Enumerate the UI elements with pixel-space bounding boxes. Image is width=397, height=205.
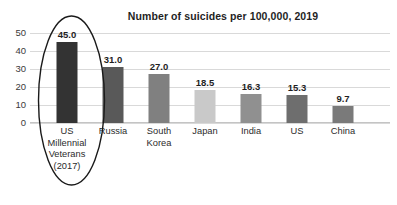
x-axis-category-label: Japan xyxy=(179,126,231,138)
gridline xyxy=(30,123,390,124)
bar[interactable] xyxy=(103,67,124,123)
y-axis: 01020304050 xyxy=(0,33,26,123)
bar[interactable] xyxy=(287,95,308,123)
x-axis-category-line: South xyxy=(133,126,185,138)
x-axis-category-line: Japan xyxy=(179,126,231,138)
bar-chart: Number of suicides per 100,000, 2019 010… xyxy=(0,0,397,205)
bars-layer: 45.031.027.018.516.315.39.7 xyxy=(30,33,390,123)
bar-value-label: 31.0 xyxy=(104,55,123,65)
x-axis-category-label: India xyxy=(225,126,277,138)
y-axis-tick-label: 20 xyxy=(15,82,26,92)
bar-group: 18.5 xyxy=(182,33,228,123)
y-axis-tick-label: 50 xyxy=(15,28,26,38)
x-axis-category-label: US xyxy=(271,126,323,138)
x-axis-category-label: Russia xyxy=(87,126,139,138)
bar-value-label: 27.0 xyxy=(150,62,169,72)
bar-group: 27.0 xyxy=(136,33,182,123)
x-axis-labels: USMillennialVeterans(2017)RussiaSouthKor… xyxy=(30,126,390,202)
bar-group: 9.7 xyxy=(320,33,366,123)
x-axis-category-line: Korea xyxy=(133,138,185,150)
bar-value-label: 45.0 xyxy=(58,30,77,40)
bar-group: 45.0 xyxy=(44,33,90,123)
bar[interactable] xyxy=(195,90,216,123)
y-axis-tick-label: 0 xyxy=(21,118,26,128)
x-axis-category-label: China xyxy=(317,126,369,138)
bar-group: 15.3 xyxy=(274,33,320,123)
x-axis-category-line: US xyxy=(41,126,93,138)
x-axis-category-label: SouthKorea xyxy=(133,126,185,149)
bar[interactable] xyxy=(57,42,78,123)
y-axis-tick-label: 10 xyxy=(15,100,26,110)
y-axis-tick-label: 40 xyxy=(15,46,26,56)
bar-value-label: 15.3 xyxy=(288,83,307,93)
bar[interactable] xyxy=(149,74,170,123)
bar-value-label: 9.7 xyxy=(336,94,349,104)
x-axis-category-line: Russia xyxy=(87,126,139,138)
bar[interactable] xyxy=(241,94,262,123)
x-axis-category-line: Millennial xyxy=(41,138,93,150)
bar-value-label: 18.5 xyxy=(196,78,215,88)
y-axis-tick-label: 30 xyxy=(15,64,26,74)
x-axis-category-line: India xyxy=(225,126,277,138)
chart-title: Number of suicides per 100,000, 2019 xyxy=(108,10,338,22)
x-axis-category-line: Veterans xyxy=(41,149,93,161)
bar-value-label: 16.3 xyxy=(242,82,261,92)
x-axis-category-line: (2017) xyxy=(41,161,93,173)
x-axis-category-label: USMillennialVeterans(2017) xyxy=(41,126,93,172)
x-axis-category-line: US xyxy=(271,126,323,138)
bar[interactable] xyxy=(333,106,354,123)
bar-group: 16.3 xyxy=(228,33,274,123)
x-axis-category-line: China xyxy=(317,126,369,138)
bar-group: 31.0 xyxy=(90,33,136,123)
